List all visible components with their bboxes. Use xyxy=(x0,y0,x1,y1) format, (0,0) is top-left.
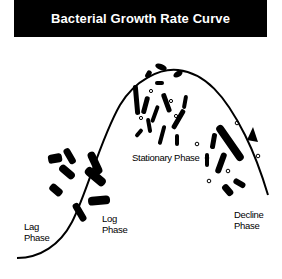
decline-phase-label: Decline Phase xyxy=(234,209,264,231)
lag-phase-label: Lag Phase xyxy=(24,221,49,243)
stationary-phase-bacteria xyxy=(133,62,188,146)
stationary-phase-label: Stationary Phase xyxy=(132,152,200,163)
log-phase-bacteria xyxy=(47,147,110,223)
log-phase-label: Log Phase xyxy=(102,213,127,235)
decline-phase-bacteria xyxy=(195,121,260,197)
growth-curve xyxy=(17,70,268,258)
